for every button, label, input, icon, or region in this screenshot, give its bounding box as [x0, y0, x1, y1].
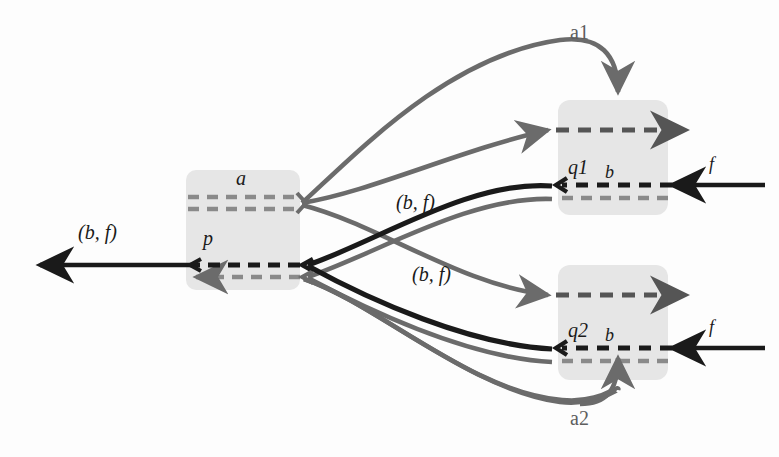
node-label-p: p — [203, 228, 213, 248]
node-label-q1: q1 — [568, 157, 588, 177]
edge-label-bf-left: (b, f) — [78, 222, 117, 242]
diagram-canvas: a p (b, f) (b, f) (b, f) q1 b q2 b f f a… — [0, 0, 779, 457]
node-label-a: a — [236, 168, 246, 188]
edge-label-bf-lower: (b, f) — [412, 264, 451, 284]
node-label-q2: q2 — [568, 320, 588, 340]
edge-label-f-top: f — [709, 155, 714, 173]
node-label-b-q1: b — [605, 163, 614, 181]
node-label-b-q2: b — [605, 326, 614, 344]
edge-label-f-bottom: f — [709, 318, 714, 336]
edge-label-a2: a2 — [570, 408, 589, 428]
edge-label-a1: a1 — [570, 22, 589, 42]
edge-label-bf-upper: (b, f) — [396, 192, 435, 212]
